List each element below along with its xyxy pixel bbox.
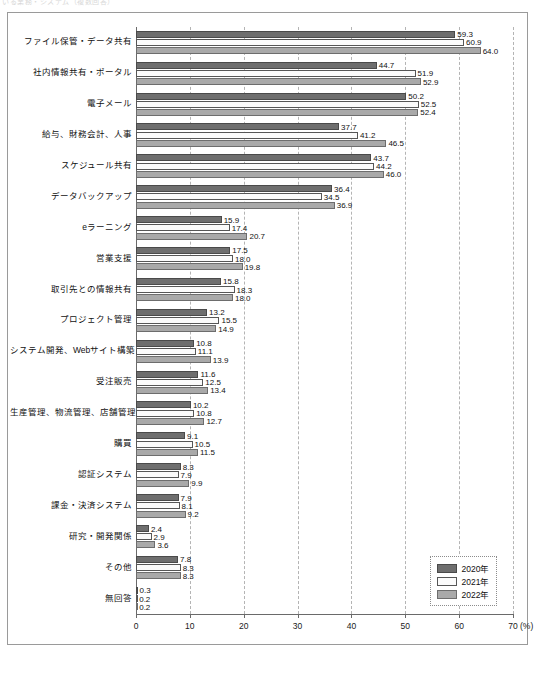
bar-2022年[interactable] bbox=[136, 140, 386, 147]
bar-value-label: 19.8 bbox=[243, 262, 261, 271]
x-tick-60 bbox=[459, 614, 460, 618]
bar-group: データバックアップ36.434.536.9 bbox=[8, 181, 527, 212]
bar-2020年[interactable] bbox=[136, 340, 194, 347]
bar-2021年[interactable] bbox=[136, 224, 230, 231]
bar-value-label: 46.0 bbox=[384, 170, 402, 179]
legend-swatch-icon bbox=[437, 564, 457, 573]
bar-2021年[interactable] bbox=[136, 39, 464, 46]
category-label: 電子メール bbox=[10, 100, 132, 109]
bar-row: 46.0 bbox=[136, 171, 527, 178]
category-label: ファイル保管・データ共有 bbox=[10, 38, 132, 47]
bar-row: 10.8 bbox=[136, 410, 527, 417]
x-axis-unit-label: (%) bbox=[520, 621, 533, 631]
bar-row: 2.4 bbox=[136, 525, 527, 532]
bar-2020年[interactable] bbox=[136, 494, 179, 501]
bar-2020年[interactable] bbox=[136, 31, 455, 38]
x-tick-0 bbox=[136, 614, 137, 618]
bar-2020年[interactable] bbox=[136, 401, 191, 408]
bar-row: 7.9 bbox=[136, 471, 527, 478]
bar-2020年[interactable] bbox=[136, 309, 207, 316]
bar-2021年[interactable] bbox=[136, 70, 416, 77]
x-tick-label-20: 20 bbox=[239, 621, 248, 631]
bar-2020年[interactable] bbox=[136, 154, 371, 161]
bar-2020年[interactable] bbox=[136, 525, 149, 532]
bar-row: 8.1 bbox=[136, 502, 527, 509]
legend-label: 2022年 bbox=[462, 588, 490, 600]
bar-2021年[interactable] bbox=[136, 502, 180, 509]
category-label: その他 bbox=[10, 563, 132, 572]
x-tick-label-50: 50 bbox=[401, 621, 410, 631]
legend-item[interactable]: 2021年 bbox=[437, 575, 490, 587]
bar-group: 取引先との情報共有15.818.318.0 bbox=[8, 274, 527, 305]
bar-row: 11.1 bbox=[136, 348, 527, 355]
bar-2021年[interactable] bbox=[136, 410, 194, 417]
bar-row: 13.2 bbox=[136, 309, 527, 316]
bar-2020年[interactable] bbox=[136, 371, 198, 378]
bars-container: 10.210.812.7 bbox=[136, 398, 527, 429]
bar-2021年[interactable] bbox=[136, 132, 358, 139]
bar-2022年[interactable] bbox=[136, 202, 335, 209]
bar-value-label: 46.5 bbox=[386, 139, 404, 148]
bar-2020年[interactable] bbox=[136, 556, 178, 563]
bar-2021年[interactable] bbox=[136, 101, 419, 108]
bar-2020年[interactable] bbox=[136, 123, 339, 130]
bar-group: ファイル保管・データ共有59.360.964.0 bbox=[8, 27, 527, 58]
bar-value-label: 0.2 bbox=[137, 602, 150, 611]
bar-2020年[interactable] bbox=[136, 247, 230, 254]
category-label: 営業支援 bbox=[10, 254, 132, 263]
bar-value-label: 20.7 bbox=[247, 232, 265, 241]
bar-2020年[interactable] bbox=[136, 216, 222, 223]
bar-2022年[interactable] bbox=[136, 387, 208, 394]
bar-row: 3.6 bbox=[136, 541, 527, 548]
bar-2021年[interactable] bbox=[136, 471, 179, 478]
x-tick-30 bbox=[298, 614, 299, 618]
bar-2021年[interactable] bbox=[136, 255, 233, 262]
bar-row: 36.9 bbox=[136, 202, 527, 209]
bar-2022年[interactable] bbox=[136, 325, 216, 332]
bar-group: 購買9.110.511.5 bbox=[8, 429, 527, 460]
bar-2022年[interactable] bbox=[136, 449, 198, 456]
bar-2021年[interactable] bbox=[136, 348, 196, 355]
bar-2022年[interactable] bbox=[136, 511, 186, 518]
bar-2021年[interactable] bbox=[136, 286, 235, 293]
bar-2021年[interactable] bbox=[136, 379, 203, 386]
bar-row: 2.9 bbox=[136, 533, 527, 540]
bar-2022年[interactable] bbox=[136, 171, 384, 178]
bar-2020年[interactable] bbox=[136, 93, 406, 100]
bar-2022年[interactable] bbox=[136, 572, 181, 579]
legend-item[interactable]: 2020年 bbox=[437, 562, 490, 574]
bar-row: 11.5 bbox=[136, 449, 527, 456]
bar-2021年[interactable] bbox=[136, 441, 193, 448]
bar-2020年[interactable] bbox=[136, 278, 221, 285]
x-tick-label-10: 10 bbox=[185, 621, 194, 631]
bars-container: 44.751.952.9 bbox=[136, 58, 527, 89]
bar-2020年[interactable] bbox=[136, 185, 332, 192]
bar-2021年[interactable] bbox=[136, 317, 219, 324]
bar-value-label: 13.4 bbox=[208, 386, 226, 395]
bar-row: 51.9 bbox=[136, 70, 527, 77]
bar-2022年[interactable] bbox=[136, 233, 247, 240]
bar-2022年[interactable] bbox=[136, 263, 243, 270]
bar-2022年[interactable] bbox=[136, 356, 211, 363]
bar-2022年[interactable] bbox=[136, 480, 189, 487]
bar-row: 13.4 bbox=[136, 387, 527, 394]
bar-2022年[interactable] bbox=[136, 47, 481, 54]
bar-2022年[interactable] bbox=[136, 109, 418, 116]
bar-row: 17.5 bbox=[136, 247, 527, 254]
bar-2021年[interactable] bbox=[136, 564, 181, 571]
bar-2020年[interactable] bbox=[136, 62, 377, 69]
x-tick-label-60: 60 bbox=[454, 621, 463, 631]
bar-row: 8.3 bbox=[136, 463, 527, 470]
bar-value-label: 52.4 bbox=[418, 108, 436, 117]
bar-row: 52.5 bbox=[136, 101, 527, 108]
bar-2021年[interactable] bbox=[136, 193, 322, 200]
bar-2020年[interactable] bbox=[136, 432, 185, 439]
bar-2022年[interactable] bbox=[136, 418, 204, 425]
bar-2021年[interactable] bbox=[136, 163, 374, 170]
bar-2021年[interactable] bbox=[136, 533, 152, 540]
bar-2022年[interactable] bbox=[136, 294, 233, 301]
bar-2022年[interactable] bbox=[136, 78, 421, 85]
bar-2022年[interactable] bbox=[136, 541, 155, 548]
legend-item[interactable]: 2022年 bbox=[437, 588, 490, 600]
bar-2020年[interactable] bbox=[136, 463, 181, 470]
